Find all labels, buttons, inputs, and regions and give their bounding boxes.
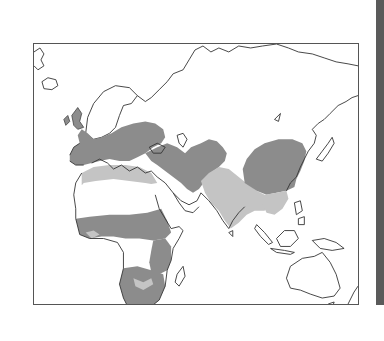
- range-map: [33, 43, 359, 305]
- greenland-coast: [34, 48, 44, 70]
- range-east-asia: [243, 139, 307, 195]
- sahara: [76, 179, 163, 217]
- borneo: [277, 231, 299, 247]
- madagascar: [175, 266, 185, 286]
- tasmania: [328, 302, 334, 304]
- sumatra: [255, 225, 273, 245]
- sakhalin: [275, 113, 281, 121]
- java: [271, 248, 295, 254]
- new-guinea: [312, 239, 344, 251]
- iceland: [42, 78, 58, 90]
- japan: [316, 137, 334, 161]
- ireland: [64, 115, 70, 125]
- british-isles: [72, 108, 84, 130]
- new-zealand: [348, 286, 358, 304]
- scrollbar[interactable]: [376, 0, 384, 305]
- philippines: [294, 201, 304, 225]
- australia: [286, 252, 340, 298]
- map-svg: [34, 44, 358, 304]
- north-coast-russia: [137, 44, 358, 102]
- sri-lanka: [229, 231, 233, 237]
